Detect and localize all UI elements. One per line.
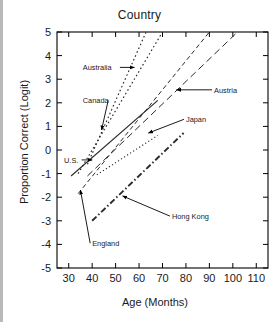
x-tick-label: 50: [109, 272, 121, 284]
x-tick-label: 40: [86, 272, 98, 284]
series-japan: Japan: [97, 115, 206, 174]
screenshot-root: Country Proportion Correct (Logit) Age (…: [0, 0, 279, 322]
x-tick-label: 60: [133, 272, 145, 284]
annotation-arrow: [80, 190, 90, 243]
annotation-label: England: [92, 239, 119, 248]
x-tick-label: 30: [63, 272, 75, 284]
x-tick-label: 110: [248, 272, 266, 284]
y-tick-label: 4: [45, 50, 51, 62]
y-tick-label: -5: [41, 262, 51, 274]
annotation-arrow: [123, 196, 170, 216]
annotation-label: Canada: [83, 96, 110, 105]
y-tick-label: 3: [45, 73, 51, 85]
series-u-s-: U.S.: [64, 100, 158, 176]
annotation-label: Hong Kong: [172, 212, 209, 221]
y-tick-label: 2: [45, 97, 51, 109]
y-tick-label: -3: [41, 215, 51, 227]
annotation-label: Japan: [186, 115, 206, 124]
y-tick-label: 1: [45, 120, 51, 132]
y-tick-label: -4: [41, 238, 51, 250]
x-tick-label: 100: [224, 272, 242, 284]
y-tick-label: 0: [45, 144, 51, 156]
x-tick-label: 80: [180, 272, 192, 284]
y-tick-label: -1: [41, 168, 51, 180]
y-tick-label: 5: [45, 26, 51, 38]
series-line: [97, 135, 158, 174]
annotation-arrow: [148, 119, 184, 133]
x-tick-label: 70: [156, 272, 168, 284]
annotation-label: U.S.: [64, 156, 78, 165]
y-tick-label: -2: [41, 191, 51, 203]
chart-figure: Country Proportion Correct (Logit) Age (…: [0, 0, 279, 322]
plot-canvas: 30405060708090100110-5-4-3-2-1012345Aust…: [0, 0, 279, 322]
series-canada: Canada: [78, 32, 162, 174]
annotation-label: Australia: [83, 63, 113, 72]
x-tick-label: 90: [203, 272, 215, 284]
series-hong-kong: Hong Kong: [92, 133, 209, 221]
annotation-label: Austria: [214, 86, 238, 95]
